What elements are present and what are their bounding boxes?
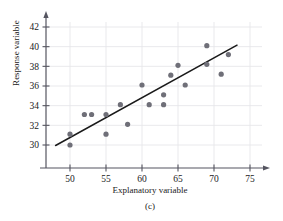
- gridlines: [46, 22, 262, 168]
- data-points: [67, 43, 231, 148]
- svg-text:70: 70: [209, 174, 219, 184]
- svg-text:42: 42: [30, 22, 40, 32]
- svg-text:65: 65: [173, 174, 183, 184]
- svg-text:34: 34: [30, 101, 40, 111]
- svg-text:40: 40: [30, 42, 40, 52]
- svg-text:75: 75: [245, 174, 255, 184]
- svg-text:60: 60: [137, 174, 147, 184]
- scatter-plot-figure: 30323436384042505560657075 Response vari…: [0, 0, 283, 221]
- svg-text:38: 38: [30, 62, 40, 72]
- y-axis-label: Response variable: [11, 1, 21, 105]
- svg-text:50: 50: [65, 174, 75, 184]
- svg-text:55: 55: [101, 174, 111, 184]
- trend-line: [56, 45, 237, 145]
- tick-marks: [43, 27, 251, 172]
- x-axis-label: Explanatory variable: [55, 185, 245, 195]
- svg-text:32: 32: [30, 121, 40, 131]
- svg-text:30: 30: [30, 140, 40, 150]
- svg-text:36: 36: [30, 81, 40, 91]
- figure-caption: (c): [55, 201, 245, 211]
